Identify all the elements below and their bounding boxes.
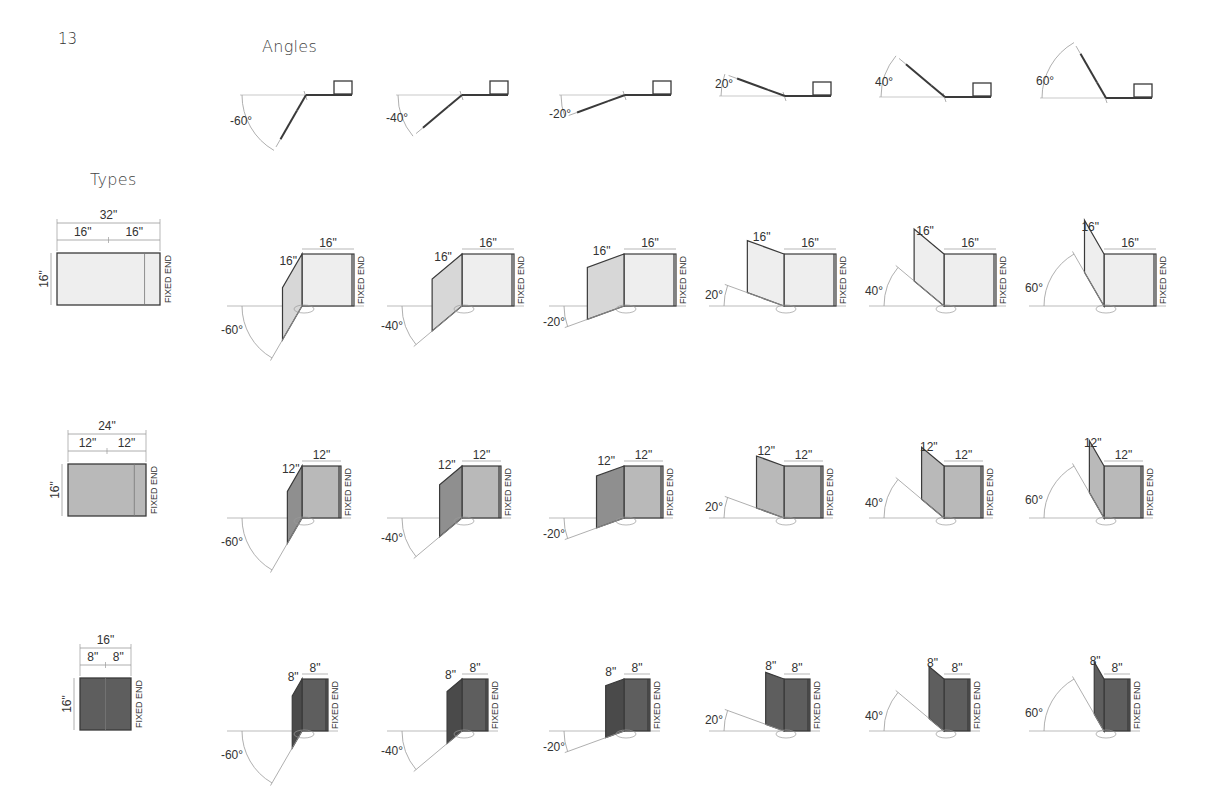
angle-arc (884, 479, 898, 518)
angle-label: 60° (1025, 493, 1043, 507)
fold-segment (297, 95, 306, 111)
fixed-panel (462, 466, 501, 518)
fold-segment (931, 85, 945, 97)
fixed-width-label: 16" (961, 236, 979, 250)
fold-width-label: 16" (916, 224, 934, 238)
fixed-width-label: 16" (801, 236, 819, 250)
fixed-width-label: 8" (310, 661, 321, 675)
fixed-width-label: 12" (313, 448, 331, 462)
folding-panel (1094, 662, 1104, 731)
angle-label: 40° (875, 75, 893, 89)
segment-width-label: 16" (74, 225, 92, 239)
fixed-panel (944, 466, 983, 518)
fixed-end-label: FIXED END (825, 468, 835, 517)
fixed-width-label: 16" (319, 236, 337, 250)
angle-guide (414, 731, 462, 771)
type-3-angle-pos60: 60°8"8"FIXED END (1025, 654, 1142, 738)
segment-width-label: 8" (87, 650, 98, 664)
fold-width-label: 12" (920, 440, 938, 454)
folding-panel (929, 666, 944, 731)
fixed-end-label: FIXED END (149, 466, 159, 515)
diagram-canvas: -60°-40°-20°20°40°60°32"16"16"16"FIXED E… (0, 0, 1211, 807)
folding-panel (757, 456, 784, 518)
fixed-panel (624, 254, 676, 306)
folding-panel (440, 466, 462, 537)
type-1-angle-pos20: 20°16"16"FIXED END (705, 230, 848, 313)
fold-width-label: 8" (445, 668, 456, 682)
type-2-angle-neg40: -40°12"12"FIXED END (381, 448, 513, 558)
angle-guide (271, 518, 303, 573)
angle-label: 40° (865, 496, 883, 510)
angle-arc (724, 710, 728, 731)
type-plan-1: 32"16"16"16"FIXED END (37, 208, 173, 305)
height-label: 16" (48, 481, 62, 499)
folding-panel (432, 254, 462, 331)
fixed-panel (944, 254, 996, 306)
fixed-width-label: 8" (470, 661, 481, 675)
angle-diagram-pos40: 40° (875, 56, 991, 102)
angle-diagram-pos60: 60° (1036, 43, 1152, 103)
angle-arc (242, 306, 272, 358)
angle-label: 40° (865, 284, 883, 298)
fixed-width-label: 16" (479, 236, 497, 250)
type-1-angle-neg20: -20°16"16"FIXED END (543, 236, 688, 329)
fixed-end-label: FIXED END (503, 468, 513, 517)
angle-arc (884, 692, 898, 731)
fold-width-label: 12" (757, 444, 775, 458)
type-row-1: 32"16"16"16"FIXED END-60°16"16"FIXED END… (37, 208, 1168, 361)
fold-segment (423, 107, 448, 128)
folding-panel (447, 679, 462, 744)
angle-label: -40° (381, 319, 403, 333)
fold-width-label: 12" (438, 458, 456, 472)
angle-arc (242, 518, 272, 570)
fixed-end-label: FIXED END (998, 256, 1008, 305)
fixed-end-label: FIXED END (343, 468, 353, 517)
fixed-panel (624, 679, 650, 731)
segment-width-label: 12" (118, 436, 136, 450)
type-2-angle-neg20: -20°12"12"FIXED END (543, 448, 675, 541)
angle-arc (884, 267, 898, 306)
angle-label: 20° (705, 500, 723, 514)
fixed-panel (944, 679, 970, 731)
angle-label: 20° (715, 77, 733, 91)
type-2-angle-pos20: 20°12"12"FIXED END (705, 444, 835, 525)
type-1-angle-neg40: -40°16"16"FIXED END (381, 236, 526, 346)
fixed-end-label: FIXED END (678, 256, 688, 305)
folding-panel (922, 447, 944, 518)
fixed-width-label: 16" (641, 236, 659, 250)
angle-label: 40° (865, 709, 883, 723)
fold-width-label: 16" (434, 250, 452, 264)
type-3-angle-neg20: -20°8"8"FIXED END (543, 661, 662, 754)
fixed-end-label: FIXED END (356, 256, 366, 305)
angle-label: -60° (221, 535, 243, 549)
angle-diagram-pos20: 20° (715, 74, 831, 101)
angle-label: -40° (386, 111, 408, 125)
angle-diagram-neg60: -60° (230, 81, 352, 150)
fixed-width-label: 12" (635, 448, 653, 462)
type-3-angle-neg60: -60°8"8"FIXED END (221, 661, 340, 786)
angle-arc (1044, 679, 1074, 731)
fixed-width-label: 16" (1121, 236, 1139, 250)
fixed-width-label: 12" (795, 448, 813, 462)
angle-label: 60° (1025, 706, 1043, 720)
type-1-angle-pos40: 40°16"16"FIXED END (865, 224, 1008, 313)
angle-arc (402, 731, 416, 770)
angle-label: 60° (1036, 74, 1054, 88)
segment-width-label: 8" (113, 650, 124, 664)
fixed-panel (784, 254, 836, 306)
type-1-angle-neg60: -60°16"16"FIXED END (221, 236, 366, 361)
type-3-angle-neg40: -40°8"8"FIXED END (381, 661, 500, 771)
angle-label: -40° (381, 531, 403, 545)
fixed-width-label: 8" (792, 661, 803, 675)
type-1-angle-pos60: 60°16"16"FIXED END (1025, 220, 1168, 313)
fixed-width-label: 12" (473, 448, 491, 462)
fixed-end-box-icon (490, 81, 508, 94)
overall-width-label: 32" (100, 208, 118, 222)
fold-width-label: 8" (765, 659, 776, 673)
angle-label: -60° (221, 748, 243, 762)
folding-panel (914, 229, 944, 306)
fixed-panel (1104, 466, 1143, 518)
angle-label: -40° (381, 744, 403, 758)
angle-label: -60° (230, 114, 252, 128)
overall-width-label: 16" (97, 633, 115, 647)
